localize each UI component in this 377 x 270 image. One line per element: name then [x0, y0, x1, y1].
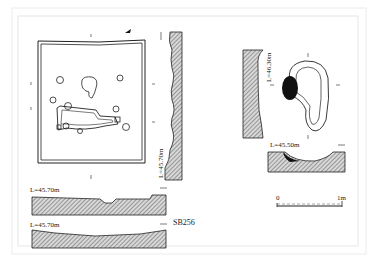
pit-plan	[270, 53, 340, 139]
building-plan	[31, 34, 155, 179]
scale-start-label: 0	[276, 195, 280, 202]
drawing-canvas	[0, 0, 377, 270]
scale-bar	[277, 201, 342, 207]
scale-end-label: 1m	[337, 195, 346, 202]
hearth-structure	[57, 106, 118, 130]
pit-vertical-level-label: L=46.30m	[266, 53, 273, 82]
pit-horizontal-section	[268, 145, 345, 172]
pit-vertical-section	[243, 50, 263, 138]
post-hole	[50, 97, 56, 103]
section-1-level-label: L=45.70m	[30, 187, 59, 194]
section-2-level-label: L=45.70m	[30, 222, 59, 229]
feature-id-label: SB256	[173, 218, 195, 227]
north-arrow-icon	[125, 29, 131, 37]
charcoal-fill	[282, 76, 298, 100]
central-pit	[82, 77, 97, 98]
vertical-section-level-label: L=45.70m	[158, 149, 165, 178]
pit-horizontal-level-label: L=45.50m	[270, 142, 299, 149]
post-hole	[117, 75, 123, 81]
post-hole	[57, 77, 64, 84]
